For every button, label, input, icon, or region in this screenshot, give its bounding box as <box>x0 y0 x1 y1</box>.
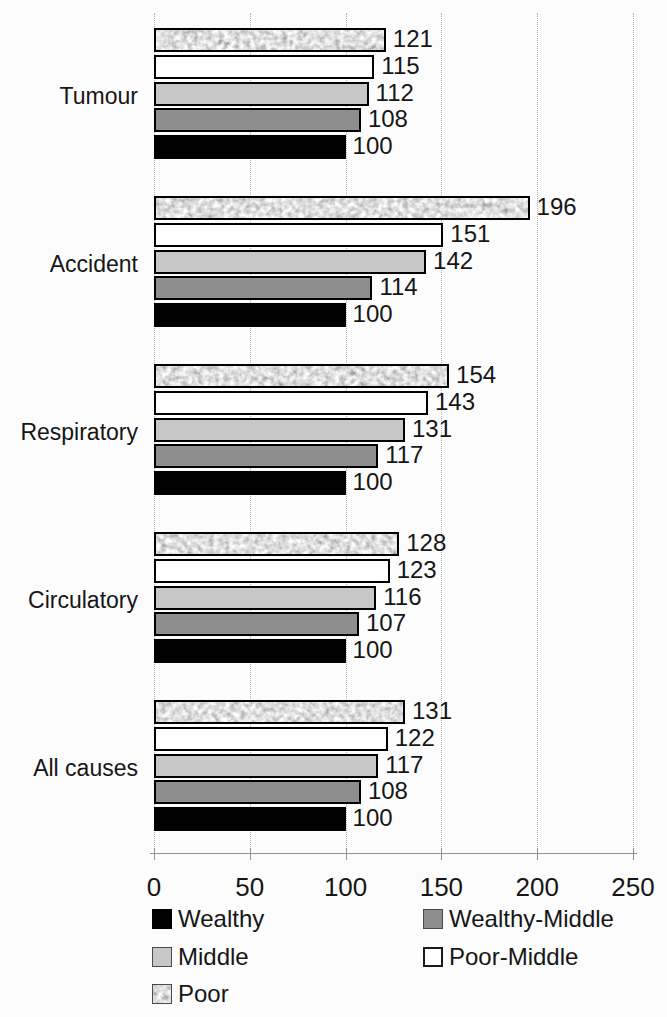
bar-value-label: 100 <box>353 636 393 664</box>
legend-swatch-middle <box>152 947 172 967</box>
x-axis-tick-label: 250 <box>611 873 654 901</box>
legend-label: Poor-Middle <box>449 944 578 970</box>
bar-value-label: 196 <box>537 193 577 221</box>
bar-value-label: 142 <box>433 247 473 275</box>
x-axis-tick <box>346 848 347 860</box>
bar-wealthy-all-causes <box>154 807 346 831</box>
x-axis-line <box>150 853 637 854</box>
bar-value-label: 131 <box>412 697 452 725</box>
x-axis-tick <box>537 848 538 860</box>
bar-chart: Tumour121115112108100Accident19615114211… <box>0 0 667 1017</box>
x-axis-tick <box>633 848 634 860</box>
legend-swatch-poor-middle <box>423 947 443 967</box>
bar-value-label: 121 <box>393 25 433 53</box>
bar-wealthy-middle-all-causes <box>154 780 361 804</box>
bar-poor-middle-tumour <box>154 55 374 79</box>
bar-poor-accident <box>154 196 530 220</box>
bar-poor-middle-respiratory <box>154 391 428 415</box>
x-axis-tick-label: 150 <box>420 873 463 901</box>
x-axis-tick-label: 50 <box>235 873 264 901</box>
bar-middle-tumour <box>154 82 369 106</box>
bar-poor-tumour <box>154 28 386 52</box>
category-label-accident: Accident <box>0 250 138 278</box>
bar-wealthy-middle-tumour <box>154 108 361 132</box>
bar-value-label: 143 <box>435 388 475 416</box>
bar-value-label: 100 <box>353 468 393 496</box>
bar-wealthy-tumour <box>154 135 346 159</box>
bar-value-label: 117 <box>385 441 423 469</box>
bar-value-label: 115 <box>381 52 419 80</box>
legend-label: Wealthy-Middle <box>449 906 614 932</box>
legend-label: Wealthy <box>178 906 264 932</box>
bar-value-label: 100 <box>353 804 393 832</box>
bar-value-label: 117 <box>385 751 423 779</box>
category-label-respiratory: Respiratory <box>0 418 138 446</box>
x-axis-tick-label: 200 <box>515 873 558 901</box>
bar-poor-respiratory <box>154 364 449 388</box>
bar-poor-all-causes <box>154 700 405 724</box>
category-label-tumour: Tumour <box>0 82 138 110</box>
bar-middle-accident <box>154 250 426 274</box>
bar-value-label: 116 <box>383 583 421 611</box>
bar-value-label: 112 <box>376 79 414 107</box>
bar-value-label: 108 <box>368 777 408 805</box>
bar-value-label: 122 <box>395 724 435 752</box>
bar-middle-circulatory <box>154 586 376 610</box>
x-axis-tick <box>154 848 155 860</box>
legend-label: Poor <box>178 981 229 1007</box>
bar-wealthy-circulatory <box>154 639 346 663</box>
bar-wealthy-middle-respiratory <box>154 444 378 468</box>
x-axis-tick <box>441 848 442 860</box>
bar-value-label: 123 <box>397 556 437 584</box>
bar-value-label: 131 <box>412 415 452 443</box>
bar-value-label: 128 <box>406 529 446 557</box>
category-label-circulatory: Circulatory <box>0 586 138 614</box>
legend-swatch-wealthy-middle <box>423 909 443 929</box>
bar-wealthy-respiratory <box>154 471 346 495</box>
bar-wealthy-accident <box>154 303 346 327</box>
bar-middle-respiratory <box>154 418 405 442</box>
speckle-pattern <box>153 985 171 1003</box>
x-axis-tick-label: 0 <box>147 873 161 901</box>
bar-value-label: 107 <box>366 609 406 637</box>
speckle-pattern <box>156 198 528 218</box>
gridline-250 <box>633 13 634 853</box>
bar-value-label: 100 <box>353 300 393 328</box>
legend-entry-poor-middle: Poor-Middle <box>423 944 578 970</box>
speckle-pattern <box>156 366 447 386</box>
legend-entry-wealthy-middle: Wealthy-Middle <box>423 906 614 932</box>
legend-swatch-wealthy <box>152 909 172 929</box>
bar-poor-middle-all-causes <box>154 727 388 751</box>
bar-value-label: 151 <box>450 220 490 248</box>
legend-entry-wealthy: Wealthy <box>152 906 264 932</box>
legend-swatch-poor <box>152 984 172 1004</box>
gridline-200 <box>537 13 538 853</box>
bar-wealthy-middle-accident <box>154 276 372 300</box>
bar-poor-circulatory <box>154 532 399 556</box>
legend-label: Middle <box>178 944 249 970</box>
bar-value-label: 108 <box>368 105 408 133</box>
speckle-pattern <box>156 702 403 722</box>
bar-middle-all-causes <box>154 754 378 778</box>
bar-poor-middle-accident <box>154 223 443 247</box>
x-axis-tick-label: 100 <box>324 873 367 901</box>
bar-wealthy-middle-circulatory <box>154 612 359 636</box>
bar-value-label: 114 <box>379 273 417 301</box>
speckle-pattern <box>156 534 397 554</box>
speckle-pattern <box>156 30 384 50</box>
bar-value-label: 100 <box>353 132 393 160</box>
legend-entry-poor: Poor <box>152 981 229 1007</box>
bar-value-label: 154 <box>456 361 496 389</box>
legend-entry-middle: Middle <box>152 944 249 970</box>
category-label-all-causes: All causes <box>0 754 138 782</box>
x-axis-tick <box>250 848 251 860</box>
bar-poor-middle-circulatory <box>154 559 390 583</box>
